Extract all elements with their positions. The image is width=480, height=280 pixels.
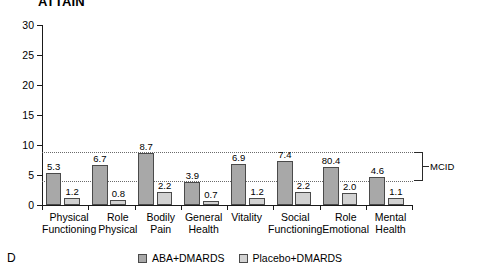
- bar-value-label: 0.8: [112, 189, 125, 199]
- x-axis-tick-mark: [135, 205, 136, 210]
- bar[interactable]: [138, 153, 154, 205]
- x-axis-category-label: Vitality: [225, 211, 268, 235]
- bar[interactable]: [323, 167, 339, 205]
- y-axis-tick-label: 25: [22, 50, 34, 61]
- bar-group: 5.31.2: [42, 25, 88, 205]
- bar[interactable]: [342, 193, 358, 205]
- x-axis-tick-mark: [227, 205, 228, 210]
- x-axis-category-label: PhysicalFunctioning: [42, 211, 96, 235]
- bar[interactable]: [46, 173, 62, 205]
- bar-value-label: 1.2: [250, 187, 263, 197]
- x-axis-category-label: GeneralHealth: [182, 211, 225, 235]
- legend-item[interactable]: Placebo+DMARDS: [239, 252, 343, 264]
- plot-area: 051015202530 5.31.26.70.88.72.23.90.76.9…: [42, 25, 412, 205]
- chart-legend: ABA+DMARDSPlacebo+DMARDS: [0, 252, 480, 264]
- legend-swatch-icon: [138, 254, 147, 263]
- x-axis-category-label: SocialFunctioning: [268, 211, 322, 235]
- bar-groups: 5.31.26.70.88.72.23.90.76.91.27.42.280.4…: [42, 25, 412, 205]
- legend-label: ABA+DMARDS: [152, 252, 225, 264]
- y-axis-tick-label: 10: [22, 140, 34, 151]
- bar[interactable]: [92, 165, 108, 205]
- bar[interactable]: [157, 192, 173, 205]
- y-axis-tick-label: 5: [28, 170, 34, 181]
- bar-value-label: 1.2: [65, 187, 78, 197]
- bar-value-label: 3.9: [186, 171, 199, 181]
- bar-value-label: 5.3: [47, 162, 60, 172]
- y-axis-tick-label: 0: [28, 200, 34, 211]
- bar[interactable]: [110, 200, 126, 205]
- y-axis-tick-label: 20: [22, 80, 34, 91]
- legend-swatch-icon: [239, 254, 248, 263]
- x-axis-tick-mark: [42, 205, 43, 210]
- bar-value-label: 1.1: [389, 187, 402, 197]
- mcid-label: MCID: [430, 161, 454, 172]
- bar-value-label: 0.7: [204, 190, 217, 200]
- x-axis-category-label: RoleEmotional: [322, 211, 369, 235]
- x-axis-tick-mark: [320, 205, 321, 210]
- bar-value-label: 7.4: [278, 150, 291, 160]
- x-axis-category-labels: PhysicalFunctioningRolePhysicalBodilyPai…: [42, 211, 412, 235]
- bar-value-label: 6.9: [232, 153, 245, 163]
- chart-title: ATTAIN: [38, 0, 85, 9]
- x-axis-category-label: RolePhysical: [96, 211, 139, 235]
- bar-group: 7.42.2: [273, 25, 319, 205]
- bar-group: 8.72.2: [135, 25, 181, 205]
- bar-value-label: 2.2: [158, 181, 171, 191]
- bar-value-label: 2.2: [297, 181, 310, 191]
- mcid-bracket: [414, 152, 423, 181]
- bar[interactable]: [295, 192, 311, 205]
- bar-value-label: 8.7: [139, 142, 152, 152]
- chart-panel: ATTAIN 051015202530 5.31.26.70.88.72.23.…: [0, 0, 480, 280]
- bar[interactable]: [64, 198, 80, 205]
- x-axis-tick-mark: [412, 205, 413, 210]
- bar-value-label: 80.4: [322, 156, 341, 166]
- bar-group: 6.70.8: [88, 25, 134, 205]
- legend-label: Placebo+DMARDS: [253, 252, 343, 264]
- legend-item[interactable]: ABA+DMARDS: [138, 252, 225, 264]
- x-axis-tick-mark: [366, 205, 367, 210]
- x-axis-tick-mark: [273, 205, 274, 210]
- x-axis-tick-mark: [88, 205, 89, 210]
- bar[interactable]: [231, 164, 247, 205]
- bar[interactable]: [369, 177, 385, 205]
- bar-value-label: 4.6: [371, 166, 384, 176]
- bar[interactable]: [203, 201, 219, 205]
- bar[interactable]: [249, 198, 265, 205]
- bar-value-label: 2.0: [343, 182, 356, 192]
- bar[interactable]: [388, 198, 404, 205]
- bar[interactable]: [184, 182, 200, 205]
- y-axis-tick-label: 15: [22, 110, 34, 121]
- x-axis-category-label: MentalHealth: [369, 211, 412, 235]
- x-axis-tick-mark: [181, 205, 182, 210]
- bar-value-label: 6.7: [93, 154, 106, 164]
- x-axis-category-label: BodilyPain: [139, 211, 182, 235]
- bar-group: 6.91.2: [227, 25, 273, 205]
- mcid-bracket-stem: [423, 166, 429, 167]
- bar-group: 4.61.1: [366, 25, 412, 205]
- bar-group: 3.90.7: [181, 25, 227, 205]
- bar-group: 80.42.0: [320, 25, 366, 205]
- y-axis-tick-label: 30: [22, 20, 34, 31]
- panel-letter: D: [7, 251, 16, 265]
- bar[interactable]: [277, 161, 293, 205]
